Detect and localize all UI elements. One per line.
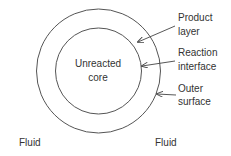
core-label-line1: Unreacted bbox=[75, 58, 121, 69]
outer-surface-arrow bbox=[157, 94, 176, 95]
fluid-label-right: Fluid bbox=[155, 137, 177, 148]
outer-surface-label-line1: Outer bbox=[178, 83, 204, 94]
shrinking-core-diagram: Unreacted core Product layer Reaction in… bbox=[0, 0, 231, 156]
unreacted-core-circle bbox=[56, 28, 142, 114]
product-layer-label-line2: layer bbox=[178, 26, 200, 37]
reaction-interface-label-line2: interface bbox=[178, 61, 217, 72]
reaction-interface-arrow bbox=[142, 61, 175, 66]
reaction-interface-label-line1: Reaction bbox=[178, 47, 217, 58]
core-label-line2: core bbox=[88, 72, 108, 83]
fluid-label-left: Fluid bbox=[19, 137, 41, 148]
product-layer-label-line1: Product bbox=[178, 12, 213, 23]
outer-surface-label-line2: surface bbox=[178, 96, 211, 107]
